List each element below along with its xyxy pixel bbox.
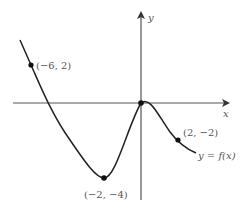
- y-axis-label: y: [147, 12, 154, 23]
- x-axis-label: x: [223, 108, 229, 119]
- point-marker: [101, 175, 107, 181]
- point-label: (2, −2): [183, 127, 218, 138]
- curve-label: y = f(x): [197, 150, 236, 161]
- origin-marker: [138, 100, 144, 106]
- point-marker: [175, 137, 180, 142]
- function-graph: x y (−6, 2) (−2, −4) (2, −2) y = f(x): [0, 0, 246, 209]
- point-marker: [28, 62, 33, 67]
- point-label: (−2, −4): [84, 189, 128, 200]
- point-label: (−6, 2): [36, 60, 71, 71]
